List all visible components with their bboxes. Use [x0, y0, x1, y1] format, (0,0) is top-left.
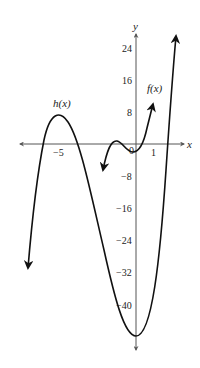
- y-tick-m24: −24: [116, 235, 132, 246]
- y-tick-m16: −16: [116, 203, 132, 214]
- function-graph: x y 24 16 8 −8 −16 −24 −32 −40 −5 0 1 h(…: [0, 0, 200, 368]
- y-tick-m8: −8: [121, 171, 132, 182]
- x-tick-1: 1: [151, 147, 156, 158]
- y-tick-24: 24: [122, 43, 132, 54]
- x-tick-m5: −5: [53, 147, 64, 158]
- f-label: f(x): [147, 82, 163, 95]
- y-axis-label: y: [132, 20, 138, 32]
- y-tick-m32: −32: [116, 267, 132, 278]
- y-tick-16: 16: [122, 75, 132, 86]
- h-label: h(x): [53, 97, 71, 110]
- x-axis-label: x: [186, 138, 192, 150]
- y-tick-8: 8: [127, 107, 132, 118]
- h-curve: [28, 36, 176, 336]
